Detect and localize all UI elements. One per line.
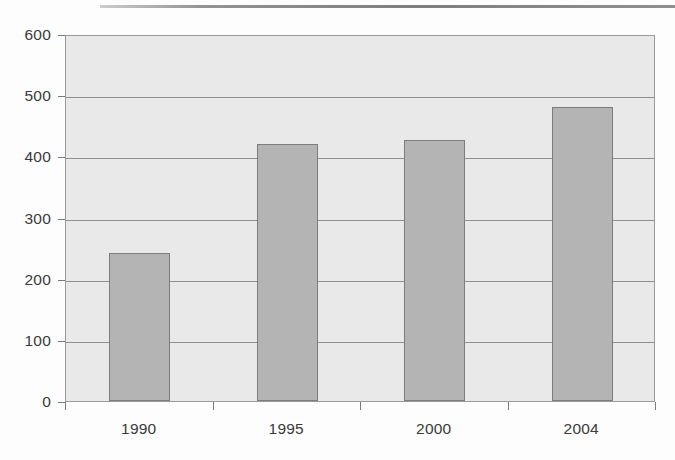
x-axis: 1990199520002004 — [65, 402, 655, 460]
bar-chart-figure: 0100200300400500600 1990199520002004 — [0, 0, 675, 460]
y-axis-tick-label: 300 — [25, 210, 51, 228]
plot-area — [65, 35, 655, 402]
y-axis-tick-label: 200 — [25, 271, 51, 289]
y-axis-tick-label: 600 — [25, 26, 51, 44]
scan-artifact-line — [100, 5, 675, 8]
y-axis-tick-label: 500 — [25, 87, 51, 105]
x-axis-tick-label: 1990 — [121, 420, 156, 438]
y-axis-tick-label: 100 — [25, 332, 51, 350]
x-axis-tick-mark — [508, 402, 509, 410]
x-axis-tick-mark — [65, 402, 66, 410]
y-axis-tick-mark — [58, 402, 65, 403]
bar — [404, 140, 465, 401]
y-axis-tick-mark — [58, 157, 65, 158]
y-axis-tick-label: 0 — [42, 393, 51, 411]
y-axis-tick-label: 400 — [25, 148, 51, 166]
x-axis-tick-label: 1995 — [269, 420, 304, 438]
y-axis-tick-mark — [58, 96, 65, 97]
y-axis-tick-mark — [58, 341, 65, 342]
bar — [257, 144, 318, 402]
y-axis-tick-mark — [58, 280, 65, 281]
x-axis-tick-mark — [213, 402, 214, 410]
y-axis-tick-mark — [58, 35, 65, 36]
gridline — [66, 97, 654, 98]
x-axis-tick-label: 2000 — [416, 420, 451, 438]
y-axis: 0100200300400500600 — [0, 0, 65, 460]
x-axis-tick-mark — [360, 402, 361, 410]
y-axis-tick-mark — [58, 219, 65, 220]
x-axis-tick-mark — [655, 402, 656, 410]
bar — [109, 253, 170, 401]
x-axis-tick-label: 2004 — [564, 420, 599, 438]
bar — [552, 107, 613, 401]
